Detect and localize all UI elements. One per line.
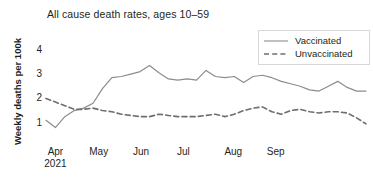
chart-legend: VaccinatedUnvaccinated <box>258 30 370 65</box>
x-tick-label: Jul <box>177 146 190 157</box>
legend-swatch-vaccinated-icon <box>263 36 289 46</box>
x-tick-label-text: Aug <box>224 146 242 157</box>
x-tick-label: Apr2021 <box>44 146 66 169</box>
chart-container: All cause death rates, ages 10–59 Weekly… <box>0 0 373 185</box>
x-tick-label: Aug <box>224 146 242 157</box>
x-tick-label-text: May <box>89 146 108 157</box>
x-tick-label-text: Jul <box>177 146 190 157</box>
x-tick-label: Jun <box>133 146 149 157</box>
legend-label: Unvaccinated <box>295 48 353 59</box>
series-line-vaccinated <box>46 66 366 128</box>
legend-swatch-unvaccinated-icon <box>263 49 289 59</box>
x-tick-label-text: Apr <box>48 146 64 157</box>
legend-item-unvaccinated[interactable]: Unvaccinated <box>263 47 365 60</box>
x-tick-label-text: Jun <box>133 146 149 157</box>
legend-item-vaccinated[interactable]: Vaccinated <box>263 34 365 47</box>
x-tick-label: May <box>89 146 108 157</box>
legend-label: Vaccinated <box>295 35 341 46</box>
x-tick-label: Sep <box>267 146 285 157</box>
x-tick-sublabel: 2021 <box>44 158 66 169</box>
x-tick-label-text: Sep <box>267 146 285 157</box>
x-axis-ticks: Apr2021MayJunJulAugSep <box>0 146 373 182</box>
